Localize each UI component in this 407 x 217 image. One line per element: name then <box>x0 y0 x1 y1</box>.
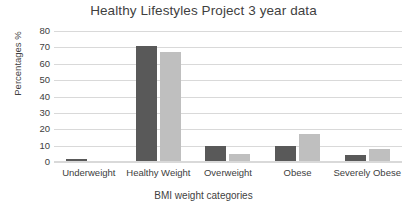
bar-group <box>54 31 124 162</box>
y-axis-tick-labels: 80706050403020100 <box>26 31 50 162</box>
y-axis-tick-label: 10 <box>26 141 50 151</box>
x-axis-tick-labels: UnderweightHealthy WeightOverweightObese… <box>54 167 402 178</box>
bar-group <box>193 31 263 162</box>
bar-groups <box>54 31 402 162</box>
bar[interactable] <box>299 134 320 162</box>
bar[interactable] <box>275 146 296 162</box>
bar[interactable] <box>136 46 157 162</box>
y-axis-tick-label: 30 <box>26 108 50 118</box>
y-axis-tick-label: 80 <box>26 26 50 36</box>
x-axis-tick-label: Underweight <box>54 167 124 178</box>
bar-group <box>332 31 402 162</box>
x-axis-title: BMI weight categories <box>0 190 407 201</box>
bar[interactable] <box>160 52 181 162</box>
bar-group <box>263 31 333 162</box>
y-axis-tick-label: 70 <box>26 43 50 53</box>
y-axis-tick-label: 60 <box>26 59 50 69</box>
x-axis-tick-label: Obese <box>263 167 333 178</box>
plot-area <box>54 31 402 162</box>
x-axis-tick-label: Healthy Weight <box>124 167 194 178</box>
y-axis-tick-label: 50 <box>26 75 50 85</box>
bar-group <box>124 31 194 162</box>
x-axis-tick-label: Severely Obese <box>332 167 402 178</box>
bar-chart: Healthy Lifestyles Project 3 year data P… <box>0 0 407 217</box>
x-axis-tick-label: Overweight <box>193 167 263 178</box>
y-axis-title: Percentages % <box>12 9 23 119</box>
y-axis-tick-label: 0 <box>26 157 50 167</box>
bar[interactable] <box>205 146 226 162</box>
y-axis-tick-label: 20 <box>26 125 50 135</box>
x-axis-line <box>54 161 402 162</box>
gridline <box>54 162 402 163</box>
chart-title: Healthy Lifestyles Project 3 year data <box>0 3 407 18</box>
y-axis-tick-label: 40 <box>26 92 50 102</box>
